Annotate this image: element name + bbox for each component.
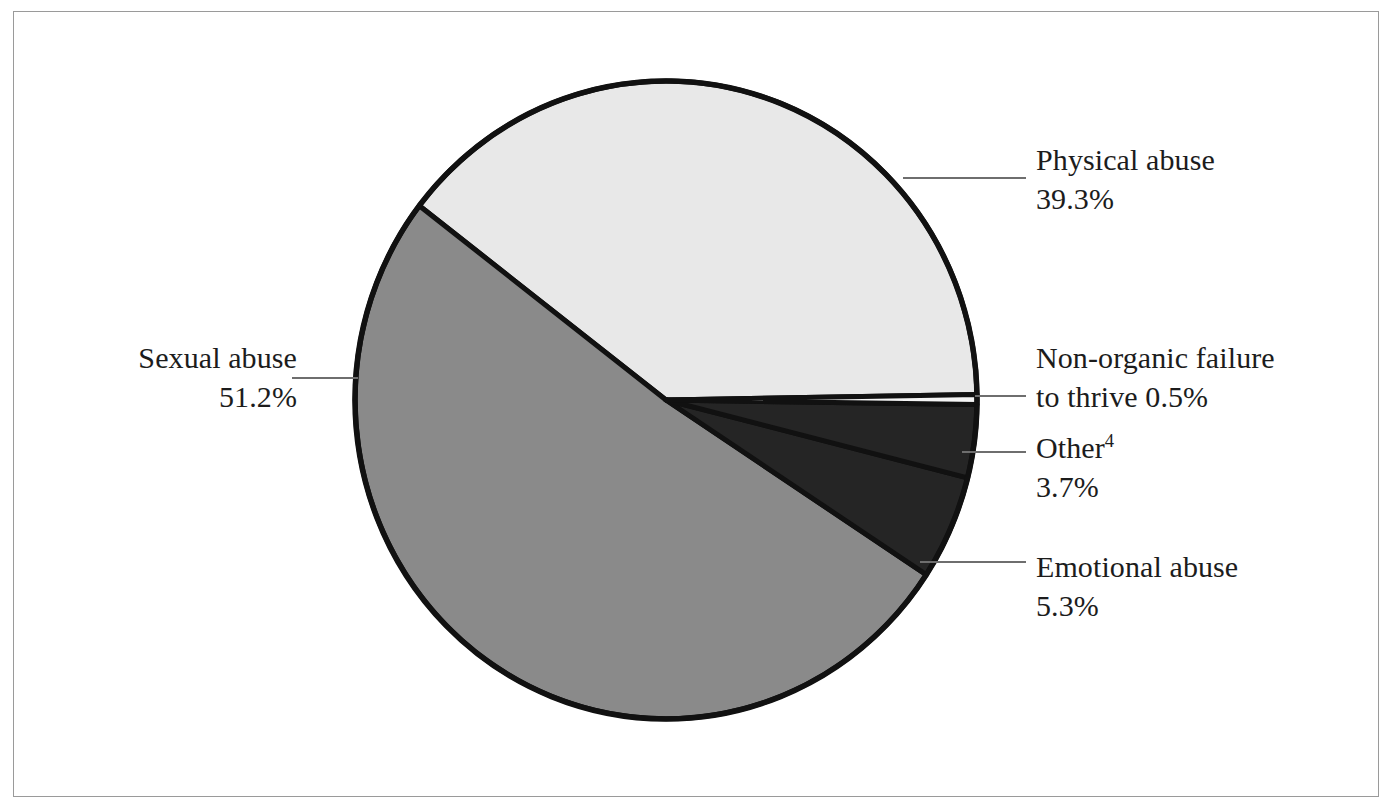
label-sexual-abuse-percent: 51.2% [138, 377, 297, 416]
label-other-name: Other [1036, 431, 1105, 464]
label-other: Other4 3.7% [1036, 428, 1114, 506]
label-other-percent: 3.7% [1036, 467, 1114, 506]
label-physical-abuse-name: Physical abuse [1036, 143, 1215, 176]
label-sexual-abuse-name: Sexual abuse [138, 341, 297, 374]
label-emotional-abuse-percent: 5.3% [1036, 586, 1238, 625]
label-non-organic-line1: Non-organic failure [1036, 341, 1275, 374]
label-physical-abuse: Physical abuse 39.3% [1036, 140, 1215, 218]
label-other-footnote-marker: 4 [1105, 430, 1114, 451]
label-non-organic-failure-to-thrive: Non-organic failure to thrive 0.5% [1036, 338, 1275, 416]
label-physical-abuse-percent: 39.3% [1036, 179, 1215, 218]
label-emotional-abuse: Emotional abuse 5.3% [1036, 547, 1238, 625]
label-emotional-abuse-name: Emotional abuse [1036, 550, 1238, 583]
pie-chart-figure: Physical abuse 39.3% Non-organic failure… [0, 0, 1392, 810]
label-non-organic-line2: to thrive 0.5% [1036, 377, 1275, 416]
label-sexual-abuse: Sexual abuse 51.2% [138, 338, 297, 416]
